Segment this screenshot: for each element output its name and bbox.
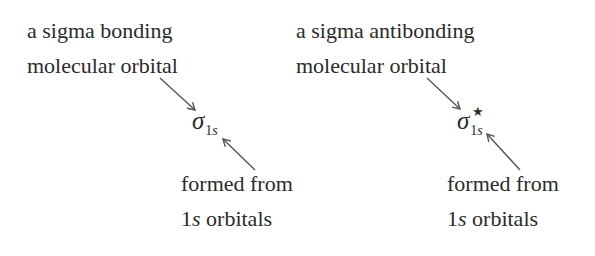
prefix-letter: s [192, 206, 201, 231]
subscript-letter: s [477, 123, 482, 138]
left-bottom-arrow [223, 139, 255, 170]
right-bottom-label: formed from 1s orbitals [447, 170, 559, 232]
subscript-letter: s [212, 123, 217, 138]
left-top-label: a sigma bonding molecular orbital [27, 17, 178, 79]
left-top-label-line1: a sigma bonding [27, 17, 178, 44]
right-bottom-label-line1: formed from [447, 170, 559, 197]
subscript: 1s [205, 123, 217, 138]
right-top-label: a sigma antibonding molecular orbital [296, 17, 474, 79]
sigma-glyph: σ [192, 107, 204, 134]
prefix-number: 1 [181, 206, 192, 231]
right-top-arrow [427, 78, 460, 109]
orbitals-text: orbitals [206, 206, 272, 231]
left-bottom-label-line2: 1s orbitals [181, 205, 293, 232]
left-top-label-line2: molecular orbital [27, 52, 178, 79]
sigma-antibonding-symbol: σ★1s [457, 107, 482, 135]
right-bottom-arrow [487, 134, 520, 170]
left-bottom-label: formed from 1s orbitals [181, 170, 293, 232]
sigma-bonding-symbol: σ1s [192, 107, 217, 135]
prefix-number: 1 [447, 206, 458, 231]
left-top-arrow [160, 78, 195, 110]
right-bottom-label-line2: 1s orbitals [447, 205, 559, 232]
star-superscript-icon: ★ [472, 104, 484, 120]
subscript: 1s [470, 123, 482, 138]
right-top-label-line2: molecular orbital [296, 52, 474, 79]
left-bottom-label-line1: formed from [181, 170, 293, 197]
sigma-glyph: σ [457, 107, 469, 134]
prefix-letter: s [458, 206, 467, 231]
right-top-label-line1: a sigma antibonding [296, 17, 474, 44]
orbitals-text: orbitals [472, 206, 538, 231]
